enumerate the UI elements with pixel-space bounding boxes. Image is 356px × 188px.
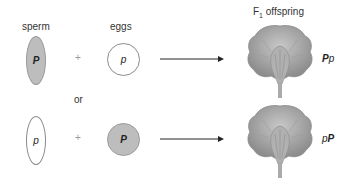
sperm-allele: P xyxy=(33,55,40,66)
sperm-header: sperm xyxy=(22,21,50,32)
sperm-cell-recessive: p xyxy=(26,116,46,165)
sperm-allele: p xyxy=(33,135,39,146)
offspring-header: F1 offspring xyxy=(253,6,304,19)
plus-sign: + xyxy=(75,52,81,63)
egg-cell-dominant: P xyxy=(107,123,140,156)
flower-icon xyxy=(245,102,315,180)
offspring-suffix: offspring xyxy=(263,6,304,17)
genotype-second-allele: p xyxy=(329,53,335,64)
flower-icon xyxy=(245,22,315,100)
genotype-first-allele: P xyxy=(322,53,329,64)
genotype-label: Pp xyxy=(322,53,334,64)
arrow-icon xyxy=(160,135,224,143)
egg-cell-recessive: p xyxy=(107,43,140,76)
eggs-header: eggs xyxy=(110,21,132,32)
arrow-icon xyxy=(160,55,224,63)
or-connector: or xyxy=(74,94,83,105)
sperm-cell-dominant: P xyxy=(26,36,46,85)
genotype-second-allele: P xyxy=(328,133,335,144)
plus-sign: + xyxy=(75,132,81,143)
egg-allele: p xyxy=(121,54,127,65)
egg-allele: P xyxy=(120,134,127,145)
genotype-label: pP xyxy=(322,133,334,144)
